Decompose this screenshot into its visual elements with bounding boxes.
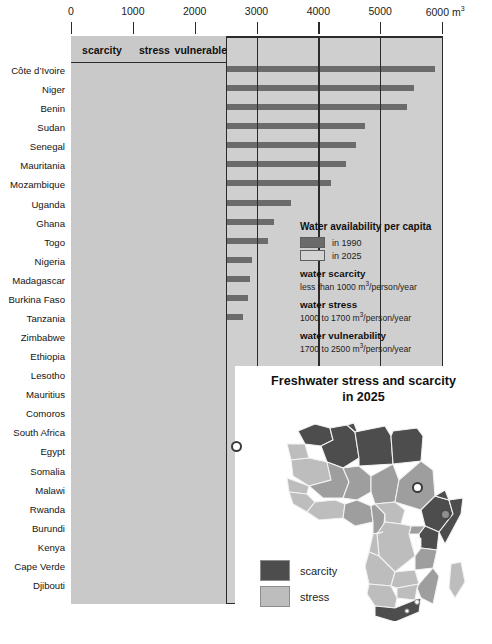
band-header-underline bbox=[71, 62, 226, 63]
category-label: Burundi bbox=[32, 523, 65, 534]
x-tick-mark bbox=[195, 22, 196, 34]
category-label: Sudan bbox=[37, 122, 65, 133]
map-title: Freshwater stress and scarcity in 2025 bbox=[235, 373, 492, 405]
legend-swatch-dark bbox=[300, 237, 325, 248]
category-label: South Africa bbox=[13, 427, 65, 438]
map-inset-mauritius bbox=[440, 509, 451, 520]
legend-item-label: in 1990 bbox=[332, 238, 362, 248]
band-header-scarcity: scarcity bbox=[71, 40, 133, 59]
category-label: Mozambique bbox=[10, 179, 65, 190]
category-label: Cape Verde bbox=[14, 561, 65, 572]
map-inset-cape-verde bbox=[231, 441, 242, 452]
legend-definition-detail: 1000 to 1700 m3/person/year bbox=[300, 311, 442, 323]
map-legend-item: stress bbox=[260, 586, 337, 607]
legend-definition: water stress1000 to 1700 m3/person/year bbox=[300, 299, 442, 323]
x-tick-label: 3000 bbox=[245, 5, 268, 17]
category-label: Lesotho bbox=[31, 370, 65, 381]
category-label: Ghana bbox=[36, 218, 65, 229]
map-country-nigeria bbox=[343, 500, 373, 526]
map-panel: Freshwater stress and scarcity in 2025 bbox=[235, 366, 492, 644]
category-label: Côte d’Ivoire bbox=[11, 65, 65, 76]
legend-definition-detail: less than 1000 m3/person/year bbox=[300, 280, 442, 292]
legend-definition-heading: water vulnerability bbox=[300, 330, 442, 341]
legend-definition: water scarcityless than 1000 m3/person/y… bbox=[300, 268, 442, 292]
chart-legend: Water availability per capita in 1990in … bbox=[300, 221, 442, 354]
category-label: Egypt bbox=[40, 446, 65, 457]
map-lake-victoria bbox=[416, 538, 421, 546]
map-title-line2: in 2025 bbox=[235, 389, 492, 405]
x-tick-mark bbox=[257, 22, 258, 34]
map-legend-label-stress: stress bbox=[300, 591, 329, 603]
category-label: Togo bbox=[44, 237, 65, 248]
x-tick-label: 1000 bbox=[121, 5, 144, 17]
x-axis-ticks: 0100020003000400050006000 m3 bbox=[71, 0, 492, 36]
x-tick-mark bbox=[442, 22, 443, 34]
legend-definition-heading: water scarcity bbox=[300, 268, 442, 279]
map-country-tanzania bbox=[415, 548, 437, 570]
map-country-western-sahara bbox=[287, 444, 309, 460]
band-vulnerable bbox=[176, 36, 225, 604]
category-label: Madagascar bbox=[12, 275, 65, 286]
infographic-root: 0100020003000400050006000 m3 scarcitystr… bbox=[0, 0, 492, 644]
legend-item-label: in 2025 bbox=[332, 251, 362, 261]
category-label: Senegal bbox=[30, 141, 65, 152]
x-tick-label: 5000 bbox=[368, 5, 391, 17]
x-tick-label: 4000 bbox=[307, 5, 330, 17]
category-labels: Côte d’IvoireNigerBeninSudanSenegalMauri… bbox=[0, 36, 68, 604]
map-title-line1: Freshwater stress and scarcity bbox=[235, 373, 492, 389]
legend-definitions: water scarcityless than 1000 m3/person/y… bbox=[300, 268, 442, 354]
legend-series-items: in 1990in 2025 bbox=[300, 237, 442, 261]
legend-definition-heading: water stress bbox=[300, 299, 442, 310]
map-marker-swaziland bbox=[405, 609, 409, 613]
category-label: Nigeria bbox=[35, 256, 65, 267]
category-label: Niger bbox=[42, 84, 65, 95]
category-label: Zimbabwe bbox=[21, 332, 65, 343]
map-legend-swatch-scarcity bbox=[260, 560, 290, 581]
x-tick-mark bbox=[318, 22, 319, 34]
map-legend: scarcity stress bbox=[260, 560, 337, 612]
map-legend-swatch-stress bbox=[260, 586, 290, 607]
legend-definition-detail: 1700 to 2500 m3/person/year bbox=[300, 342, 442, 354]
category-label: Tanzania bbox=[27, 313, 65, 324]
map-country-egypt bbox=[391, 428, 423, 464]
legend-item: in 1990 bbox=[300, 237, 442, 248]
map-country-chad bbox=[371, 464, 399, 504]
map-legend-item: scarcity bbox=[260, 560, 337, 581]
band-divider-2500 bbox=[226, 36, 228, 604]
map-inset-comoros bbox=[412, 482, 423, 493]
map-marker-lesotho bbox=[415, 600, 420, 605]
category-label: Rwanda bbox=[30, 504, 65, 515]
category-label: Somalia bbox=[30, 466, 65, 477]
category-label: Comoros bbox=[26, 408, 65, 419]
legend-item: in 2025 bbox=[300, 250, 442, 261]
x-tick-label: 0 bbox=[68, 5, 74, 17]
x-tick-mark bbox=[380, 22, 381, 34]
map-country-namibia-botswana bbox=[367, 584, 397, 608]
map-country-libya bbox=[355, 426, 393, 466]
band-header-vulnerable: vulnerable bbox=[176, 40, 225, 59]
band-stress bbox=[133, 36, 176, 604]
legend-title: Water availability per capita bbox=[300, 221, 442, 232]
band-header-stress: stress bbox=[133, 40, 176, 59]
legend-swatch-light bbox=[300, 250, 325, 261]
category-label: Burkina Faso bbox=[8, 294, 65, 305]
category-label: Mauritius bbox=[26, 389, 65, 400]
x-tick-label: 6000 m3 bbox=[426, 5, 465, 18]
category-label: Uganda bbox=[31, 199, 65, 210]
map-legend-label-scarcity: scarcity bbox=[300, 565, 337, 577]
category-label: Ethiopia bbox=[30, 351, 65, 362]
map-country-madagascar bbox=[449, 562, 465, 598]
x-tick-label: 2000 bbox=[183, 5, 206, 17]
legend-definition: water vulnerability1700 to 2500 m3/perso… bbox=[300, 330, 442, 354]
x-tick-mark bbox=[71, 22, 72, 34]
category-label: Malawi bbox=[35, 485, 65, 496]
category-label: Kenya bbox=[38, 542, 65, 553]
category-label: Djibouti bbox=[33, 580, 65, 591]
category-label: Benin bbox=[40, 103, 65, 114]
category-label: Mauritania bbox=[20, 160, 65, 171]
x-tick-mark bbox=[133, 22, 134, 34]
band-scarcity bbox=[71, 36, 133, 604]
